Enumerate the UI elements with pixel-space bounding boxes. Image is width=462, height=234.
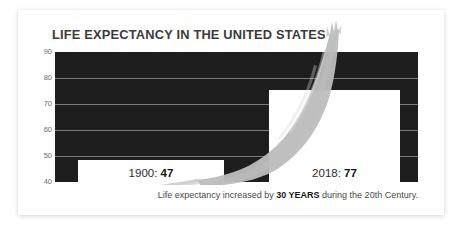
bar-2018-label: 2018: 77	[269, 167, 400, 179]
chart-plot-area: 1900: 47 2018: 77	[55, 52, 418, 182]
caption-prefix: Life expectancy increased by	[158, 190, 277, 200]
caption-suffix: during the 20th Century.	[320, 190, 418, 200]
y-axis-tick-50: 50	[28, 152, 52, 160]
y-axis-tick-40: 40	[28, 178, 52, 186]
gridline-80	[55, 78, 418, 79]
caption: Life expectancy increased by 30 YEARS du…	[55, 190, 418, 200]
bar-1900-label: 1900: 47	[78, 167, 224, 179]
page-title: LIFE EXPECTANCY IN THE UNITED STATES	[52, 27, 326, 42]
y-axis-tick-60: 60	[28, 126, 52, 134]
y-axis-tick-90: 90	[28, 48, 52, 56]
y-axis: 908070605040	[24, 52, 52, 182]
y-axis-tick-80: 80	[28, 74, 52, 82]
infographic-canvas: LIFE EXPECTANCY IN THE UNITED STATES 908…	[0, 0, 462, 234]
y-axis-tick-70: 70	[28, 100, 52, 108]
bar-2018-value: 77	[344, 167, 357, 179]
bar-1900-value: 47	[161, 167, 174, 179]
bar-2018-year: 2018:	[312, 167, 344, 179]
caption-highlight: 30 YEARS	[276, 190, 319, 200]
bar-1900[interactable]: 1900: 47	[78, 160, 224, 182]
bar-1900-year: 1900:	[129, 167, 161, 179]
bar-2018[interactable]: 2018: 77	[269, 90, 400, 182]
